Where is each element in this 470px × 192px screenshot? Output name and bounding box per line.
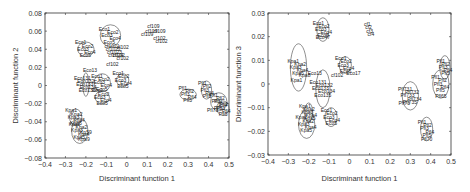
point-label: Kpa9 [78, 136, 90, 142]
point-label: cf102 [117, 44, 129, 50]
x-tick-label: 0 [347, 158, 351, 165]
point-label: Eco5 [117, 83, 129, 89]
x-tick-label: −0.4 [261, 158, 275, 165]
y-tick-label: −0.06 [24, 136, 42, 143]
y-tick-label: −0.01 [247, 104, 265, 111]
point-label: Pfl73 [207, 107, 219, 113]
point-label: Eco5 [96, 100, 108, 106]
point-label: Kpa1 [291, 77, 303, 83]
point-label: Pfl73 [399, 100, 411, 106]
scatter-charts: −0.4−0.3−0.2−0.100.10.20.30.40.50.080.06… [0, 0, 470, 192]
point-label: Kpa5 [300, 127, 312, 133]
x-axis-label: Discriminant function 1 [99, 174, 175, 183]
point-label: Pfl5 [183, 97, 192, 103]
point-label: Eco5 [326, 120, 338, 126]
plot-2: −0.4−0.3−0.2−0.100.10.20.30.40.50.030.02… [234, 10, 456, 184]
x-tick-label: 0.5 [446, 158, 456, 165]
y-tick-label: 0 [261, 81, 265, 88]
point-label: cf4 [368, 31, 375, 37]
point-label: Pfl5 [441, 70, 450, 76]
y-tick-label: 0.03 [251, 10, 265, 17]
x-tick-label: 0.4 [426, 158, 436, 165]
point-label: cf102 [331, 72, 343, 78]
x-tick-label: 0.4 [204, 161, 214, 168]
point-label: cf109 [141, 31, 153, 37]
point-label: Eco13 [83, 67, 97, 73]
y-tick-label: −0.02 [247, 128, 265, 135]
plot-1: −0.4−0.3−0.2−0.100.10.20.30.40.50.080.06… [11, 10, 234, 184]
x-tick-label: 0.5 [224, 161, 234, 168]
point-label: Pfl65 [435, 93, 447, 99]
x-tick-label: 0.2 [385, 158, 395, 165]
x-tick-label: −0.2 [79, 161, 93, 168]
y-tick-label: 0.02 [28, 64, 42, 71]
point-label: cf109 [153, 28, 165, 34]
point-label: Eco135 [314, 92, 331, 98]
point-label: Pfl5 [219, 111, 228, 117]
point-label: cf102 [155, 38, 167, 44]
y-tick-label: 0.01 [251, 57, 265, 64]
x-tick-label: −0.3 [59, 161, 73, 168]
point-label: Kp59 [80, 129, 92, 135]
x-tick-label: −0.2 [302, 158, 316, 165]
x-tick-label: 0.3 [405, 158, 415, 165]
point-label: cf102 [106, 61, 118, 67]
point-label: Pfl5 [436, 87, 445, 93]
x-tick-label: −0.1 [322, 158, 336, 165]
y-tick-label: −0.04 [24, 118, 42, 125]
x-tick-label: 0.1 [365, 158, 375, 165]
y-tick-label: 0.02 [251, 33, 265, 40]
point-label: Eco17 [346, 70, 360, 76]
x-tick-label: −0.1 [99, 161, 113, 168]
point-label: Eco47 [316, 34, 330, 40]
y-tick-label: 0.04 [28, 46, 42, 53]
x-tick-label: −0.4 [38, 161, 52, 168]
y-tick-label: 0 [38, 82, 42, 89]
y-tick-label: 0.06 [28, 28, 42, 35]
point-label: Pfl70 [421, 136, 433, 142]
x-axis-label: Discriminant function 1 [322, 174, 398, 183]
x-tick-label: −0.3 [281, 158, 295, 165]
point-label: Eco5 [80, 52, 92, 58]
y-axis-label: Discriminant function 3 [234, 46, 243, 122]
x-tick-label: 0.1 [142, 161, 152, 168]
x-tick-label: 0 [125, 161, 129, 168]
y-tick-label: −0.02 [24, 100, 42, 107]
y-tick-label: −0.03 [247, 152, 265, 159]
y-tick-label: −0.08 [24, 155, 42, 162]
x-tick-label: 0.3 [183, 161, 193, 168]
x-tick-label: 0.2 [163, 161, 173, 168]
y-tick-label: 0.08 [28, 10, 42, 17]
y-axis-label: Discriminant function 2 [11, 48, 20, 124]
